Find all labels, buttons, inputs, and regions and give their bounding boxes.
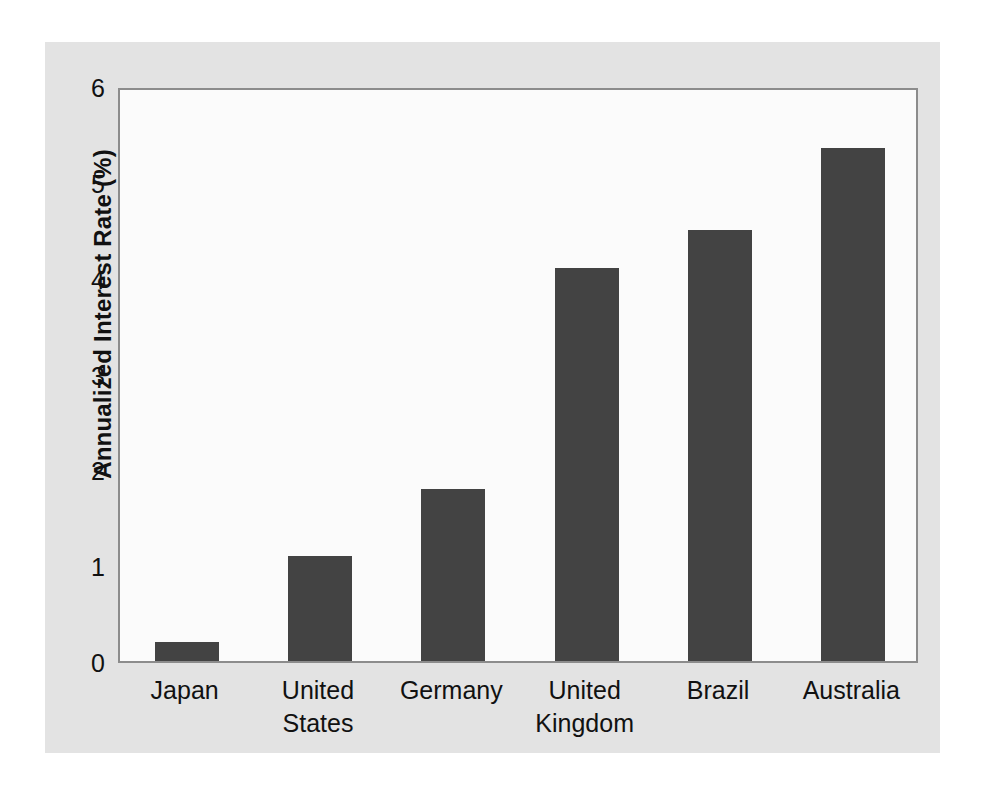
figure-panel: Annualized Interest Rate (%) 0123456 Jap… bbox=[45, 42, 940, 753]
x-tick-label-brazil: Brazil bbox=[651, 674, 784, 707]
x-axis-ticks: JapanUnited StatesGermanyUnited KingdomB… bbox=[118, 674, 918, 754]
bar-japan[interactable] bbox=[155, 642, 219, 661]
bar-united-states[interactable] bbox=[288, 556, 352, 661]
bars-layer bbox=[120, 90, 916, 661]
y-tick-label-5: 5 bbox=[65, 169, 105, 198]
y-axis-ticks: 0123456 bbox=[45, 88, 105, 663]
x-tick-label-japan: Japan bbox=[118, 674, 251, 707]
bar-australia[interactable] bbox=[821, 148, 885, 661]
plot-area bbox=[118, 88, 918, 663]
y-tick-label-3: 3 bbox=[65, 361, 105, 390]
x-tick-label-united-states: United States bbox=[251, 674, 384, 740]
y-tick-label-4: 4 bbox=[65, 265, 105, 294]
y-tick-label-1: 1 bbox=[65, 553, 105, 582]
x-tick-label-australia: Australia bbox=[785, 674, 918, 707]
bar-germany[interactable] bbox=[421, 489, 485, 662]
bar-brazil[interactable] bbox=[688, 230, 752, 661]
x-tick-label-united-kingdom: United Kingdom bbox=[518, 674, 651, 740]
x-tick-label-germany: Germany bbox=[385, 674, 518, 707]
y-tick-label-0: 0 bbox=[65, 649, 105, 678]
bar-united-kingdom[interactable] bbox=[555, 268, 619, 661]
y-tick-label-2: 2 bbox=[65, 457, 105, 486]
y-tick-label-6: 6 bbox=[65, 74, 105, 103]
